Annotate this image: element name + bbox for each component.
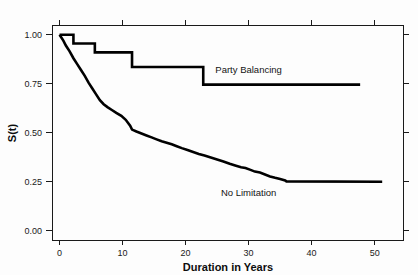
series-label-party-balancing: Party Balancing [215, 64, 282, 75]
plot-frame [52, 25, 403, 240]
y-tick-label: 0.50 [24, 128, 42, 138]
x-tick-label: 0 [57, 248, 62, 258]
x-axis-title: Duration in Years [183, 261, 273, 273]
x-tick-label: 30 [244, 248, 254, 258]
x-tick-label: 50 [370, 248, 380, 258]
x-axis-ticks: 01020304050 [57, 20, 380, 258]
y-tick-label: 0.00 [24, 226, 42, 236]
y-axis-ticks: 0.000.250.500.751.00 [24, 30, 409, 235]
plot-box [52, 25, 403, 240]
chart-canvas: 01020304050 0.000.250.500.751.00 Party B… [0, 0, 418, 275]
y-axis-title: S(t) [6, 124, 18, 143]
x-tick-label: 10 [118, 248, 128, 258]
x-tick-label: 40 [307, 248, 317, 258]
survival-chart: 01020304050 0.000.250.500.751.00 Party B… [0, 0, 418, 275]
series-label-no-limitation: No Limitation [221, 187, 276, 198]
series-curves [60, 35, 383, 182]
x-tick-label: 20 [181, 248, 191, 258]
y-tick-label: 0.75 [24, 79, 42, 89]
curve-party-balancing [60, 35, 361, 85]
y-tick-label: 1.00 [24, 30, 42, 40]
y-tick-label: 0.25 [24, 177, 42, 187]
curve-no-limitation [60, 35, 383, 182]
